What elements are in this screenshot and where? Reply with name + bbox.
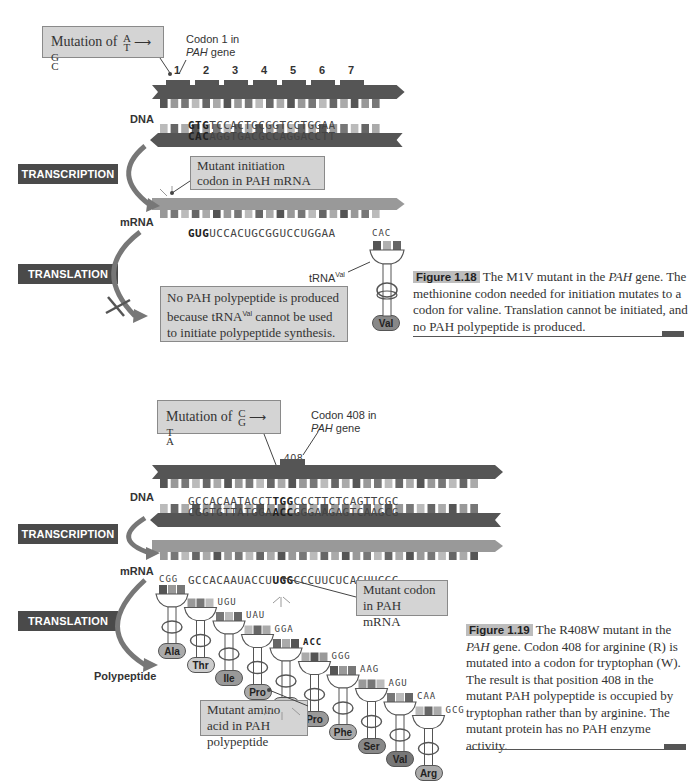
- trna-anticodon-base: [245, 626, 253, 635]
- trna-anticodon-base: [330, 666, 338, 675]
- mutant-amino-acid-callout: Mutant amino acid in PAH polypeptide: [200, 700, 308, 736]
- trna-anticodon: ACC: [303, 637, 322, 647]
- trna-head: [156, 594, 188, 607]
- trna-anticodon: GGA: [275, 624, 294, 634]
- caption-rule-block: [664, 744, 686, 750]
- trna-anticodon: GGG: [332, 651, 351, 661]
- trna-head: [413, 716, 445, 729]
- trna-anticodon-base: [206, 599, 214, 608]
- trna-anticodon-base: [225, 612, 233, 621]
- trna-icon: [185, 599, 217, 659]
- trna-anticodon-base: [405, 693, 413, 702]
- amino-acid-thr: Thr: [187, 657, 215, 673]
- trna-anticodon: AGU: [389, 678, 408, 688]
- trna-anticodon-base: [282, 639, 290, 648]
- trna-anticodon-base: [216, 612, 224, 621]
- trna-head: [299, 662, 331, 675]
- trna-anticodon-base: [159, 585, 167, 594]
- trna-icon: [242, 626, 274, 686]
- trna-anticodon-base: [254, 626, 262, 635]
- trna-stem: [254, 648, 262, 686]
- trna-anticodon-base: [302, 653, 310, 662]
- trna-icon: [413, 707, 445, 767]
- trna-anticodon-base: [188, 599, 196, 608]
- trna-icon: [270, 639, 302, 699]
- trna-anticodon-base: [368, 680, 376, 689]
- amino-acid-pro: Pro: [244, 684, 272, 700]
- trna-anticodon-base: [434, 707, 442, 716]
- trna-anticodon: CAA: [417, 691, 436, 701]
- trna-head: [327, 675, 359, 688]
- trna-stem: [168, 607, 176, 645]
- trna-head: [213, 621, 245, 634]
- trna-head: [242, 635, 274, 648]
- trna-anticodon-base: [291, 639, 299, 648]
- trna-icon: [213, 612, 245, 672]
- trna-anticodon-base: [177, 585, 185, 594]
- figure-1-19-caption: Figure 1.19The R408W mutant in the PAH g…: [466, 622, 691, 754]
- trna-stem: [225, 634, 233, 672]
- trna-icon: [327, 666, 359, 726]
- trna-anticodon-base: [387, 693, 395, 702]
- trna-head: [185, 608, 217, 621]
- trna-anticodon-base: [377, 680, 385, 689]
- trna-anticodon-base: [263, 626, 271, 635]
- trna-anticodon: CGG: [159, 574, 178, 584]
- trna-icon: [356, 680, 388, 740]
- trna-icon: [384, 693, 416, 753]
- trna-stem: [311, 675, 319, 713]
- amino-acid-val: Val: [386, 751, 414, 767]
- trna-head: [384, 702, 416, 715]
- trna-anticodon-base: [416, 707, 424, 716]
- trna-anticodon-base: [396, 693, 404, 702]
- trna-stem: [282, 661, 290, 699]
- trna-anticodon-base: [425, 707, 433, 716]
- amino-acid-phe: Phe: [329, 724, 357, 740]
- trna-anticodon: UGU: [218, 597, 237, 607]
- trna-head: [270, 648, 302, 661]
- trna-stem: [368, 702, 376, 740]
- trna-anticodon-base: [348, 666, 356, 675]
- trna-anticodon-base: [311, 653, 319, 662]
- trna-anticodon-base: [359, 680, 367, 689]
- trna-stem: [425, 729, 433, 767]
- trna-anticodon-base: [320, 653, 328, 662]
- trna-anticodon-base: [197, 599, 205, 608]
- amino-acid-ala: Ala: [158, 643, 186, 659]
- trna-head: [356, 689, 388, 702]
- trna-anticodon: GCG: [446, 705, 465, 715]
- trna-anticodon-base: [339, 666, 347, 675]
- trna-stem: [197, 621, 205, 659]
- trna-icon: [156, 585, 188, 645]
- trna-anticodon-base: [168, 585, 176, 594]
- trna-anticodon: UAU: [246, 610, 265, 620]
- trna-anticodon-base: [234, 612, 242, 621]
- caption-rule: [466, 749, 676, 750]
- amino-acid-ile: Ile: [215, 670, 243, 686]
- trna-anticodon-base: [273, 639, 281, 648]
- figure-label: Figure 1.19: [466, 624, 533, 636]
- trna-stem: [339, 688, 347, 726]
- trna-anticodon: AAG: [360, 664, 379, 674]
- amino-acid-arg: Arg: [415, 765, 443, 781]
- amino-acid-ser: Ser: [358, 738, 386, 754]
- trna-stem: [396, 715, 404, 753]
